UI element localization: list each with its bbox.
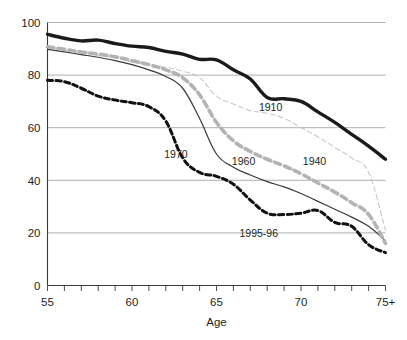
series-line-1960 bbox=[48, 47, 386, 244]
x-tick-label: 75+ bbox=[376, 296, 396, 308]
line-chart: 0204060801005560657075+Age19101940196019… bbox=[0, 0, 407, 340]
y-tick-label: 40 bbox=[28, 175, 41, 187]
series-line-1970 bbox=[48, 49, 386, 240]
series-label-1995-96: 1995-96 bbox=[239, 227, 278, 239]
series-labels: 19101940196019701995-96 bbox=[164, 101, 326, 239]
y-tick-label: 0 bbox=[34, 280, 40, 292]
series-label-1910: 1910 bbox=[259, 101, 283, 113]
x-tick-label: 70 bbox=[295, 296, 308, 308]
series-label-1970: 1970 bbox=[164, 148, 188, 160]
series-label-1940: 1940 bbox=[303, 155, 327, 167]
y-tick-label: 100 bbox=[21, 17, 40, 29]
y-tick-label: 20 bbox=[28, 227, 41, 239]
gridlines bbox=[48, 23, 386, 233]
chart-canvas: 0204060801005560657075+Age19101940196019… bbox=[0, 0, 407, 340]
y-tick-label: 60 bbox=[28, 122, 41, 134]
series-label-1960: 1960 bbox=[232, 155, 256, 167]
series-line-1995-96 bbox=[48, 80, 386, 252]
y-axis-tick-labels: 020406080100 bbox=[21, 17, 40, 292]
y-tick-label: 80 bbox=[28, 69, 41, 81]
x-tick-label: 65 bbox=[210, 296, 223, 308]
x-tick-label: 55 bbox=[41, 296, 54, 308]
x-axis-title: Age bbox=[206, 316, 226, 328]
x-axis-ticks bbox=[48, 286, 386, 292]
x-tick-label: 60 bbox=[126, 296, 139, 308]
x-axis-tick-labels: 5560657075+ bbox=[41, 296, 395, 308]
